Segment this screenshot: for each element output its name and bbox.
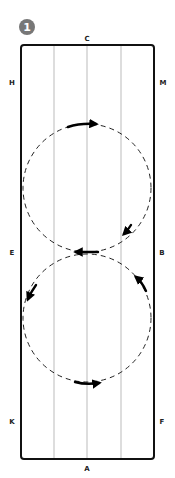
letter-m: M bbox=[160, 79, 167, 87]
letter-k: K bbox=[9, 418, 15, 426]
letter-a: A bbox=[84, 465, 90, 473]
arrow-right-icon bbox=[68, 124, 96, 127]
letter-c: C bbox=[84, 35, 89, 43]
step-number: 1 bbox=[23, 21, 31, 34]
arrow-down-left-icon bbox=[124, 225, 131, 234]
letter-f: F bbox=[160, 418, 165, 426]
arrow-down-left-icon bbox=[28, 285, 36, 299]
arrow-up-left-icon bbox=[136, 277, 146, 291]
letter-e: E bbox=[10, 249, 15, 257]
dressage-arena-diagram: 1 C A H E K M B F bbox=[0, 0, 175, 478]
letter-h: H bbox=[9, 79, 15, 87]
letter-b: B bbox=[159, 249, 164, 257]
step-badge: 1 bbox=[19, 19, 35, 35]
